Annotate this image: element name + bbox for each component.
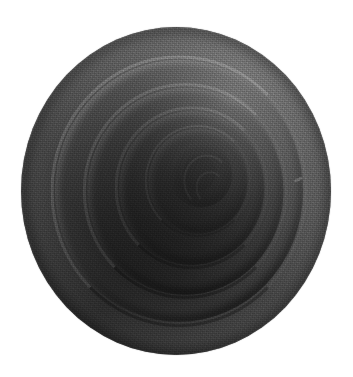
spiral-disc (21, 27, 331, 355)
disc-body (21, 27, 331, 355)
image-canvas: Concentric stepped spiral disc Grayscale… (0, 0, 353, 377)
